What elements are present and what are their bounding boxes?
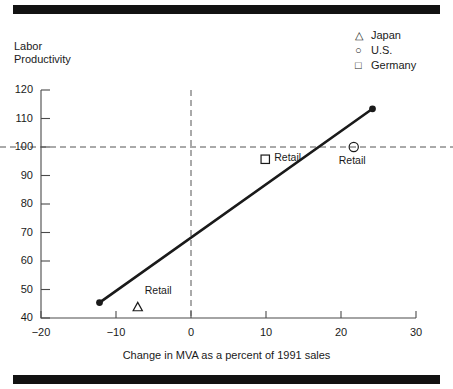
y-tick-label: 90 [5, 170, 33, 181]
data-marker-germany [261, 155, 269, 163]
x-tick-label: 0 [171, 327, 211, 338]
figure: Labor Productivity △ Japan ○ U.S. □ Germ… [0, 0, 453, 389]
trend-endpoint-marker [96, 299, 103, 306]
y-tick-label: 60 [5, 255, 33, 266]
axis-spine [41, 90, 416, 318]
annotation-japan-retail: Retail [145, 285, 172, 296]
y-tick-label: 40 [5, 312, 33, 323]
x-axis-title: Change in MVA as a percent of 1991 sales [0, 349, 453, 361]
trend-endpoint-marker [369, 105, 376, 112]
trend-line [100, 109, 373, 303]
y-tick-label: 120 [5, 84, 33, 95]
x-tick-label: 30 [396, 327, 436, 338]
x-tick-label: −20 [21, 327, 61, 338]
y-tick-label: 70 [5, 227, 33, 238]
y-tick-label: 100 [5, 141, 33, 152]
y-tick-label: 50 [5, 284, 33, 295]
plot-area [0, 0, 453, 389]
x-tick-label: −10 [96, 327, 136, 338]
y-tick-label: 110 [5, 113, 33, 124]
data-marker-japan [133, 302, 142, 310]
y-tick-label: 80 [5, 198, 33, 209]
x-tick-label: 20 [321, 327, 361, 338]
annotation-germany-retail: Retail [274, 152, 301, 163]
annotation-us-retail: Retail [339, 155, 366, 166]
x-tick-label: 10 [246, 327, 286, 338]
